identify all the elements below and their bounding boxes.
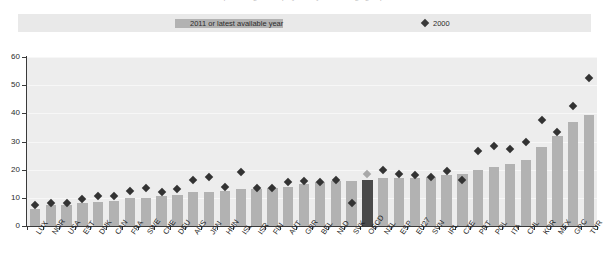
legend-item-diamonds[interactable]: 2000 [422, 19, 450, 28]
y-tick-label: 30 [2, 137, 20, 146]
bar-oecd [362, 180, 372, 226]
y-tick-mark [22, 85, 27, 86]
plot-wrapper: 0102030405060 LUXNORUSAESTDNKCANFRASWECH… [0, 40, 609, 269]
y-tick-label: 10 [2, 193, 20, 202]
bar-hun [220, 191, 230, 226]
gridline [27, 142, 597, 143]
y-tick-mark [22, 57, 27, 58]
bar-esp [394, 178, 404, 226]
bar-swatch-icon [175, 20, 186, 26]
y-tick-label: 50 [2, 80, 20, 89]
bar-fin [267, 188, 277, 226]
x-tick-mark [27, 227, 28, 230]
y-tick-label: 40 [2, 108, 20, 117]
chart-legend: 2011 or latest available year 2000 [18, 14, 591, 32]
bar-kor [536, 147, 546, 226]
bar-prt [473, 170, 483, 226]
bar-aut [283, 187, 293, 226]
page-title: percentage of employees, by sex and age … [0, 0, 609, 1]
legend-label-bars: 2011 or latest available year [190, 19, 283, 28]
bar-ita [505, 164, 515, 226]
y-tick-label: 20 [2, 165, 20, 174]
bar-mex [552, 136, 562, 226]
bar-tur [584, 115, 594, 226]
gridline [27, 85, 597, 86]
cut-off-title: percentage of employees, by sex and age … [0, 0, 609, 9]
gridline [27, 57, 597, 58]
gridline [27, 113, 597, 114]
chart-page: percentage of employees, by sex and age … [0, 0, 609, 269]
bar-isr [251, 189, 261, 226]
y-tick-label: 0 [2, 221, 20, 230]
legend-label-diamonds: 2000 [433, 19, 450, 28]
bar-irl [441, 175, 451, 226]
bar-gbr [299, 184, 309, 226]
legend-item-bars[interactable]: 2011 or latest available year [175, 19, 283, 28]
y-tick-mark [22, 142, 27, 143]
bar-chl [521, 160, 531, 226]
y-tick-label: 60 [2, 52, 20, 61]
diamond-marker-icon [421, 19, 429, 27]
y-tick-mark [22, 113, 27, 114]
bar-nld [331, 181, 341, 226]
y-tick-mark [22, 198, 27, 199]
bar-eu27 [410, 178, 420, 226]
y-tick-mark [22, 170, 27, 171]
bar-grc [568, 122, 578, 226]
bar-pol [489, 167, 499, 226]
